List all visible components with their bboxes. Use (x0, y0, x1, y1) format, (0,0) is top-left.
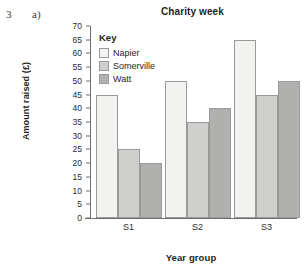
y-tick-label: 60 (60, 49, 82, 58)
y-tick-label: 25 (60, 145, 82, 154)
legend-swatch-icon (99, 61, 109, 71)
legend-label: Somerville (113, 61, 155, 71)
chart-figure: 3 a) Charity week Amount raised (£) 0510… (0, 0, 304, 273)
chart-legend: Key NapierSomervilleWatt (99, 32, 155, 85)
y-tick-label: 40 (60, 104, 82, 113)
y-tick-label: 35 (60, 118, 82, 127)
plot-area: Amount raised (£) 0510152025303540455055… (0, 0, 304, 273)
bar (278, 81, 300, 218)
bar (234, 40, 256, 218)
x-axis-line (85, 218, 297, 219)
y-tick-label: 20 (60, 159, 82, 168)
legend-item: Somerville (99, 59, 155, 72)
y-tick-label: 10 (60, 186, 82, 195)
y-tick-label: 65 (60, 35, 82, 44)
legend-item: Watt (99, 72, 155, 85)
y-tick-label: 0 (60, 214, 82, 223)
x-tick-label: S3 (237, 222, 297, 232)
y-axis-label: Amount raised (£) (21, 41, 31, 161)
bar (118, 149, 140, 218)
y-tick-label: 15 (60, 173, 82, 182)
bar (256, 95, 278, 218)
legend-title: Key (99, 32, 155, 43)
x-tick-label: S1 (99, 222, 159, 232)
bar (209, 108, 231, 218)
bar-group (234, 26, 300, 218)
legend-label: Watt (113, 74, 131, 84)
legend-item: Napier (99, 46, 155, 59)
x-axis-label: Year group (85, 252, 297, 263)
bar (165, 81, 187, 218)
x-tick-label: S2 (168, 222, 228, 232)
bar-group (165, 26, 231, 218)
bar (140, 163, 162, 218)
y-tick-label: 5 (60, 200, 82, 209)
y-tick-label: 45 (60, 90, 82, 99)
bar (96, 95, 118, 218)
y-axis-tick-labels: 0510152025303540455055606570 (60, 0, 82, 273)
bar (187, 122, 209, 218)
y-tick-label: 30 (60, 131, 82, 140)
legend-swatch-icon (99, 48, 109, 58)
legend-label: Napier (113, 48, 140, 58)
y-tick-label: 50 (60, 77, 82, 86)
legend-swatch-icon (99, 74, 109, 84)
y-tick-label: 70 (60, 22, 82, 31)
y-tick-label: 55 (60, 63, 82, 72)
